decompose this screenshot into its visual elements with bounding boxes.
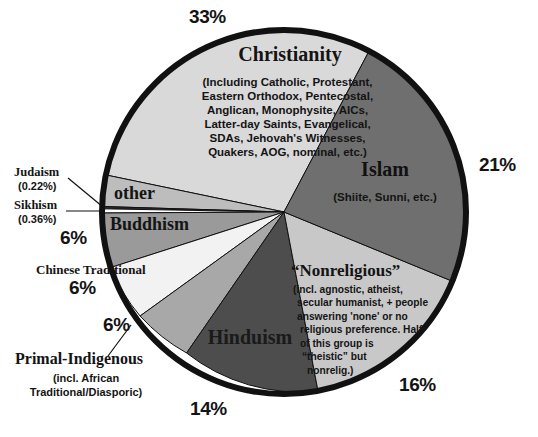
slice-detail-christianity: (Including Catholic, Protestant, Eastern… <box>155 75 420 159</box>
slice-detail-line: religious preference. Half <box>293 323 445 336</box>
outside-detail-line: Traditional/Diasporic) <box>21 386 151 400</box>
slice-detail-line: Anglican, Monophysite, AICs, <box>155 103 420 117</box>
slice-label-islam: Islam <box>330 159 440 180</box>
slice-detail-line: of this group is <box>293 337 445 350</box>
outside-label-chinese-traditional: Chinese Traditional <box>36 263 146 277</box>
slice-detail-line: answering 'none' or no <box>293 310 445 323</box>
percent-label-hinduism: 14% <box>190 399 227 419</box>
outside-detail-line: (incl. African <box>21 372 151 386</box>
percent-label-judaism: (0.22%) <box>18 181 57 193</box>
slice-detail-line: Latter-day Saints, Evangelical, <box>155 117 420 131</box>
slice-detail-nonreligious: (incl. agnostic, atheist, secular humani… <box>293 283 445 377</box>
percent-label-islam: 21% <box>479 155 516 175</box>
percent-label-christianity: 33% <box>189 7 226 27</box>
slice-detail-line: SDAs, Jehovah's Witnesses, <box>155 131 420 145</box>
slice-label-christianity: Christianity <box>200 44 380 65</box>
slice-detail-islam: (Shiite, Sunni, etc.) <box>320 190 450 204</box>
slice-detail-line: (incl. agnostic, atheist, <box>293 283 445 296</box>
percent-label-primal-indigenous: 6% <box>103 315 130 335</box>
percent-label-sikhism: (0.36%) <box>18 214 57 226</box>
leader-line-judaism <box>68 178 103 207</box>
percent-label-nonreligious: 16% <box>399 375 436 395</box>
slice-label-other: other <box>114 184 194 203</box>
slice-detail-line: secular humanist, + people <box>293 296 445 309</box>
slice-label-nonreligious: “Nonreligious” <box>291 262 441 280</box>
outside-detail-primal-indigenous: (incl. African Traditional/Diasporic) <box>21 372 151 400</box>
slice-label-hinduism: Hinduism <box>190 327 310 348</box>
percent-label-buddhism: 6% <box>60 228 87 248</box>
outside-label-sikhism: Sikhism <box>14 199 57 212</box>
outside-label-judaism: Judaism <box>14 166 59 179</box>
slice-detail-line: Quakers, AOG, nominal, etc.) <box>155 145 420 159</box>
percent-label-chinese-traditional: 6% <box>69 278 96 298</box>
slice-label-buddhism: Buddhism <box>110 215 225 234</box>
slice-detail-line: (Including Catholic, Protestant, <box>155 75 420 89</box>
outside-label-primal-indigenous: Primal-Indigenous <box>15 351 143 368</box>
slice-detail-line: “theistic” but <box>293 350 445 363</box>
pie-chart: Christianity (Including Catholic, Protes… <box>0 0 538 437</box>
slice-detail-line: Eastern Orthodox, Pentecostal, <box>155 89 420 103</box>
